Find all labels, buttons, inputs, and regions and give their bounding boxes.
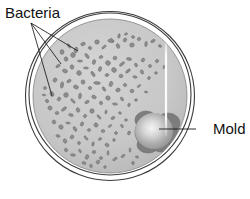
bacteria-colony [101, 129, 105, 132]
bacteria-colony [104, 166, 107, 169]
bacteria-colony [112, 103, 117, 106]
bacteria-colony [42, 94, 46, 96]
bacteria-colony [55, 111, 59, 114]
bacteria-colony [94, 81, 101, 84]
bacteria-colony [113, 56, 117, 60]
bacteria-colony [163, 65, 165, 69]
figure-root: Bacteria Mold [0, 0, 250, 199]
bacteria-colony [129, 148, 131, 152]
bacteria-colony [148, 64, 152, 67]
bacteria-colony [43, 86, 46, 90]
bacteria-colony [119, 74, 123, 78]
bacteria-colony [66, 122, 71, 124]
bacteria-colony [60, 50, 64, 55]
specular-highlight [165, 38, 167, 136]
bacteria-colony [130, 89, 134, 93]
petri-dish-diagram: Bacteria Mold [0, 0, 250, 199]
bacteria-label: Bacteria [5, 4, 61, 21]
bacteria-colony [107, 151, 109, 156]
bacteria-colony [77, 141, 80, 144]
bacteria-colony [154, 71, 157, 74]
bacteria-colony [90, 109, 95, 114]
mold-core [135, 113, 173, 149]
bacteria-colony [112, 138, 115, 141]
mold-label: Mold [213, 120, 246, 137]
bacteria-colony [83, 67, 88, 69]
bacteria-colony [77, 60, 82, 62]
bacteria-colony [95, 40, 100, 45]
